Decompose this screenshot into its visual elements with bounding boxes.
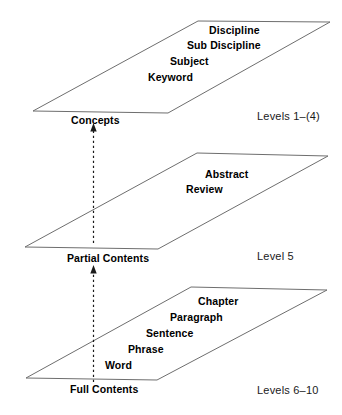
plane-item-sub-discipline: Sub Discipline	[187, 39, 261, 51]
plane-item-chapter: Chapter	[198, 295, 238, 307]
plane-item-phrase: Phrase	[128, 343, 164, 355]
plane-base-label-full-contents: Full Contents	[70, 383, 138, 395]
levels-diagram: Discipline Sub Discipline Subject Keywor…	[0, 0, 342, 415]
plane-level-label-full-contents: Levels 6–10	[257, 384, 319, 396]
plane-item-subject: Subject	[170, 55, 209, 67]
plane-item-keyword: Keyword	[148, 71, 193, 83]
plane-base-label-concepts: Concepts	[71, 114, 120, 126]
plane-item-review: Review	[186, 183, 223, 195]
plane-item-word: Word	[105, 359, 132, 371]
plane-partial-contents	[25, 153, 328, 249]
plane-level-label-concepts: Levels 1–(4)	[257, 110, 320, 122]
plane-item-sentence: Sentence	[146, 327, 194, 339]
plane-level-label-partial-contents: Level 5	[257, 250, 294, 262]
plane-item-discipline: Discipline	[209, 24, 260, 36]
plane-item-paragraph: Paragraph	[170, 311, 223, 323]
arrow-full-to-partial	[90, 265, 96, 382]
arrow-partial-to-concepts	[90, 123, 96, 243]
plane-concepts	[33, 21, 330, 113]
plane-base-label-partial-contents: Partial Contents	[67, 252, 149, 264]
plane-item-abstract: Abstract	[205, 168, 248, 180]
